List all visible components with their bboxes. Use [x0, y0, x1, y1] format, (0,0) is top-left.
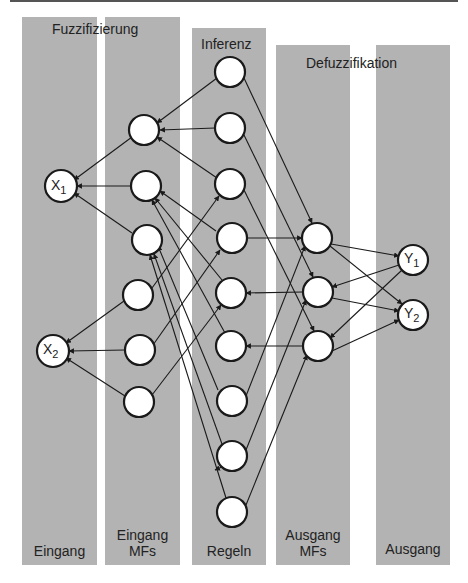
- node-output-mf: [303, 331, 333, 361]
- node-rule: [217, 441, 247, 471]
- label-input-mfs-line1: Eingang: [105, 527, 180, 543]
- node-output-mf: [302, 223, 332, 253]
- node-output-mf: [303, 277, 333, 307]
- nodes: [37, 57, 428, 527]
- node-input-mf: [132, 225, 162, 255]
- network-diagram: X1 X2 Y1 Y2: [0, 0, 468, 583]
- node-rule: [217, 386, 247, 416]
- label-input-mfs-line2: MFs: [105, 543, 180, 559]
- node-input-mf: [125, 335, 155, 365]
- node-input-mf: [131, 171, 161, 201]
- node-rule: [217, 497, 247, 527]
- label-output-mfs-line1: Ausgang: [276, 527, 350, 543]
- node-input-mf: [129, 115, 159, 145]
- node-rule: [215, 113, 245, 143]
- node-rule: [216, 331, 246, 361]
- label-input: Eingang: [22, 543, 97, 559]
- node-rule: [217, 223, 247, 253]
- label-output-mfs-line2: MFs: [276, 543, 350, 559]
- node-rule: [215, 57, 245, 87]
- node-rule: [215, 169, 245, 199]
- node-rule: [216, 278, 246, 308]
- label-rules: Regeln: [192, 543, 266, 559]
- label-input-mfs: Eingang MFs: [105, 527, 180, 559]
- label-output: Ausgang: [376, 541, 450, 557]
- label-output-mfs: Ausgang MFs: [276, 527, 350, 559]
- node-input-mf: [123, 280, 153, 310]
- node-input-mf: [124, 387, 154, 417]
